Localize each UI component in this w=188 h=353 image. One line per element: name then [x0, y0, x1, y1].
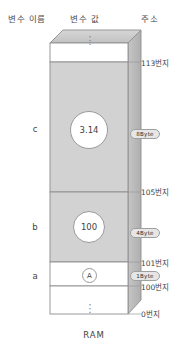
size-badge-b: 4Byte	[130, 228, 160, 238]
diagram-caption: RAM	[0, 330, 188, 340]
size-badge-a: 1Byte	[130, 271, 160, 281]
address-label-113: 113번지	[141, 57, 169, 68]
variable-value-a: A	[82, 268, 97, 283]
variable-value-c: 3.14	[70, 111, 108, 149]
ellipsis-bottom: ⋮	[83, 306, 97, 311]
variable-label-c: c	[26, 124, 44, 134]
address-label-0: 0번지	[141, 308, 160, 319]
address-label-101: 101번지	[141, 257, 169, 268]
ellipsis-top: ⋮	[83, 38, 97, 43]
variable-label-a: a	[26, 271, 44, 281]
memory-box-svg	[0, 0, 188, 353]
variable-label-b: b	[26, 222, 44, 232]
ram-memory-diagram: 변수 이름 변수 값 주소	[0, 0, 188, 353]
memory-box	[0, 0, 188, 353]
variable-value-b: 100	[73, 211, 105, 243]
address-label-100: 100번지	[141, 281, 169, 292]
address-label-105: 105번지	[141, 186, 169, 197]
size-badge-c: 8Byte	[130, 129, 160, 139]
